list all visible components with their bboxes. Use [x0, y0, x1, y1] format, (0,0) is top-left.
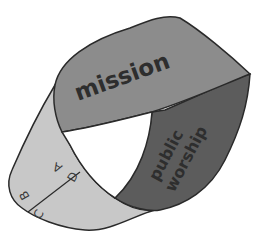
- mobius-diagram: mission public worship A D B C: [0, 0, 264, 244]
